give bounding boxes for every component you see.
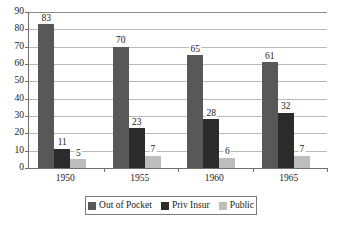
bar: 65 [187, 55, 203, 168]
bar-value-label: 11 [57, 138, 68, 148]
y-axis-tick [25, 47, 29, 48]
bar: 70 [113, 47, 129, 168]
bar-chart: 010203040506070809083115702376528661327 … [0, 0, 340, 229]
y-axis-label: 0 [19, 163, 24, 173]
bar-value-label: 7 [149, 145, 156, 155]
x-axis-tick [104, 168, 105, 172]
x-axis-label: 1965 [279, 174, 298, 184]
bar-value-label: 7 [298, 145, 305, 155]
y-axis-tick [25, 12, 29, 13]
y-axis-label: 90 [15, 7, 25, 17]
y-axis-label: 70 [15, 42, 25, 52]
y-axis-label: 20 [15, 129, 25, 139]
y-axis-tick [25, 151, 29, 152]
y-axis-tick [25, 29, 29, 30]
plot-area: 010203040506070809083115702376528661327 [28, 12, 327, 169]
bar: 61 [262, 62, 278, 168]
y-axis-tick [25, 168, 29, 169]
bar: 11 [54, 149, 70, 168]
y-axis-tick [25, 99, 29, 100]
bar-value-label: 28 [206, 109, 218, 119]
y-axis-label: 10 [15, 146, 25, 156]
bar-value-label: 23 [131, 118, 143, 128]
legend-item[interactable]: Public [219, 201, 254, 211]
bar: 7 [145, 156, 161, 168]
bar: 28 [203, 119, 219, 168]
y-axis-tick [25, 116, 29, 117]
bar-value-label: 83 [41, 14, 53, 24]
bar-value-label: 6 [224, 147, 231, 157]
legend-item[interactable]: Priv Insur [161, 201, 210, 211]
y-axis-tick [25, 64, 29, 65]
legend-label: Public [230, 201, 254, 211]
legend-label: Out of Pocket [99, 201, 152, 211]
x-axis-label: 1950 [56, 174, 75, 184]
bar-value-label: 70 [115, 36, 127, 46]
bar-group: 61327 [262, 12, 310, 168]
bar-value-label: 65 [190, 45, 202, 55]
legend-swatch-icon [161, 202, 169, 210]
bar: 5 [70, 159, 86, 168]
y-axis-tick [25, 81, 29, 82]
bar: 32 [278, 113, 294, 168]
bar-group: 70237 [113, 12, 161, 168]
x-axis-tick [178, 168, 179, 172]
legend-swatch-icon [88, 202, 96, 210]
legend-label: Priv Insur [172, 201, 210, 211]
bar-group: 83115 [38, 12, 86, 168]
y-axis-label: 80 [15, 25, 25, 35]
bar-value-label: 61 [264, 52, 276, 62]
bar: 6 [219, 158, 235, 168]
bar: 83 [38, 24, 54, 168]
legend-swatch-icon [219, 202, 227, 210]
legend-item[interactable]: Out of Pocket [88, 201, 152, 211]
y-axis-label: 60 [15, 59, 25, 69]
bar-value-label: 5 [75, 149, 82, 159]
y-axis-label: 40 [15, 94, 25, 104]
x-axis-tick [327, 168, 328, 172]
x-axis-label: 1955 [130, 174, 149, 184]
y-axis-label: 50 [15, 77, 25, 87]
x-axis-tick [253, 168, 254, 172]
chart-legend: Out of PocketPriv InsurPublic [85, 196, 257, 215]
bar-value-label: 32 [280, 102, 292, 112]
bar-group: 65286 [187, 12, 235, 168]
y-axis-tick [25, 133, 29, 134]
bar: 23 [129, 128, 145, 168]
x-axis-label: 1960 [205, 174, 224, 184]
bar: 7 [294, 156, 310, 168]
y-axis-label: 30 [15, 111, 25, 121]
